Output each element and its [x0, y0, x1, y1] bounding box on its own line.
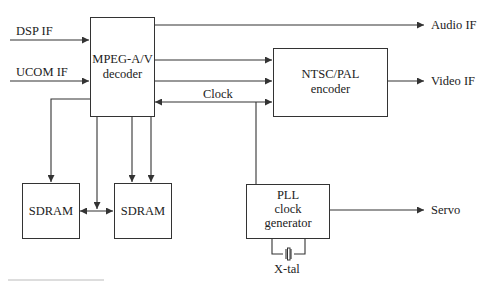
pll-label-line3: generator — [246, 216, 330, 230]
crystal-icon — [288, 248, 291, 260]
video-if-label: Video IF — [431, 74, 475, 88]
ntsc-pal-encoder-label-line2: encoder — [273, 82, 388, 97]
mpeg-decoder-label-line1: MPEG-A/V — [90, 52, 155, 67]
mpeg-decoder-label: MPEG-A/V decoder — [90, 52, 155, 82]
x-tal-label: X-tal — [274, 262, 300, 276]
ntsc-pal-encoder-label-line1: NTSC/PAL — [273, 67, 388, 82]
crystal-wiring — [272, 238, 283, 254]
sdram-1-label: SDRAM — [22, 204, 80, 219]
servo-label: Servo — [431, 203, 460, 217]
dsp-if-label: DSP IF — [16, 24, 53, 38]
pll-label-line2: clock — [246, 202, 330, 216]
ntsc-pal-encoder-label: NTSC/PAL encoder — [273, 67, 388, 97]
connection-lines — [0, 0, 482, 282]
ucom-if-label: UCOM IF — [16, 65, 68, 79]
clock-label: Clock — [203, 87, 233, 101]
pll-label-line1: PLL — [246, 188, 330, 202]
mpeg-decoder-label-line2: decoder — [90, 67, 155, 82]
audio-if-label: Audio IF — [431, 18, 477, 32]
pll-clock-generator-label: PLL clock generator — [246, 188, 330, 230]
crystal-wiring-right — [294, 238, 305, 254]
decoder-sdram1-line — [51, 99, 90, 182]
sdram-2-label: SDRAM — [114, 204, 172, 219]
